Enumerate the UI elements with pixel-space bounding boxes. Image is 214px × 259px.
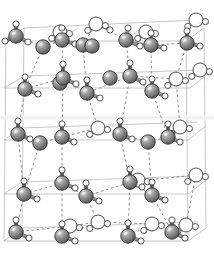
hydrogen-sphere [27, 136, 33, 142]
hydrogen-sphere [148, 30, 154, 36]
oxygen-sphere [11, 127, 25, 141]
hydrogen-sphere [35, 91, 41, 97]
hydrogen-sphere [184, 28, 190, 34]
hydrogen-sphere [76, 225, 82, 231]
oxygen-sphere [144, 38, 158, 52]
oxygen-sphere [80, 86, 94, 100]
hydrogen-sphere [97, 95, 103, 101]
hydrogen-sphere [104, 221, 110, 227]
oxygen-sphere [9, 29, 23, 43]
hydrogen-sphere [135, 35, 141, 41]
hydrogen-sphere [158, 223, 164, 229]
hydrogen-sphere [149, 76, 155, 82]
hydrogen-sphere [125, 25, 131, 31]
oxygen-sphere [18, 82, 32, 96]
hydrogen-sphere [73, 81, 79, 87]
hydrogen-sphere [202, 19, 208, 25]
oxygen-sphere [145, 188, 159, 202]
oxygen-sphere [79, 189, 93, 203]
hydrogen-sphere [127, 60, 133, 66]
hydrogen-sphere [72, 238, 78, 244]
molecular-structure-figure [0, 0, 214, 259]
water-oxygen-sphere [91, 121, 105, 135]
hydrogen-sphere [60, 61, 66, 67]
oxygen-sphere [165, 225, 179, 239]
water-oxygen-sphere [189, 13, 203, 27]
hydrogen-sphere [104, 127, 110, 133]
hydrogen-sphere [202, 174, 208, 180]
oxygen-sphere [33, 136, 47, 150]
oxygen-sphere [121, 229, 135, 243]
hydrogen-sphere [149, 179, 155, 185]
hydrogen-sphere [189, 73, 195, 79]
oxygen-sphere [36, 40, 50, 54]
water-oxygen-sphere [169, 72, 183, 86]
hydrogen-sphere [186, 126, 192, 132]
water-oxygen-sphere [173, 120, 187, 134]
hydrogen-sphere [161, 45, 167, 51]
oxygen-sphere [161, 130, 175, 144]
oxygen-sphere [119, 33, 133, 47]
oxygen-sphere [55, 176, 69, 190]
hydrogen-sphere [22, 74, 28, 80]
hydrogen-sphere [129, 136, 135, 142]
hydrogen-sphere [21, 178, 27, 184]
hydrogen-sphere [72, 185, 78, 191]
hydrogen-sphere [26, 235, 32, 241]
oxygen-sphere [17, 187, 31, 201]
oxygen-sphere [55, 130, 69, 144]
oxygen-sphere [9, 225, 23, 239]
hydrogen-sphere [85, 27, 91, 33]
hydrogen-sphere [127, 166, 133, 172]
oxygen-sphere [180, 36, 194, 50]
water-oxygen-sphere [193, 63, 207, 77]
hydrogen-sphere [139, 184, 145, 190]
water-oxygen-sphere [179, 218, 193, 232]
oxygen-sphere [55, 33, 69, 47]
hydrogen-sphere [192, 224, 198, 230]
hydrogen-sphere [165, 82, 171, 88]
hydrogen-sphere [197, 43, 203, 49]
hydrogen-sphere [182, 78, 188, 84]
oxygen-sphere [145, 84, 159, 98]
hydrogen-sphere [59, 121, 65, 127]
hydrogen-sphere [13, 217, 19, 223]
oxygen-sphere [56, 71, 70, 85]
hydrogen-sphere [165, 121, 171, 127]
hydrogen-sphere [84, 77, 90, 83]
water-oxygen-sphere [145, 217, 159, 231]
hydrogen-sphere [15, 118, 21, 124]
hydrogen-sphere [177, 139, 183, 145]
hydrogen-sphere [34, 196, 40, 202]
water-oxygen-sphere [89, 17, 103, 31]
hydrogen-sphere [138, 238, 144, 244]
oxygen-sphere [85, 39, 99, 53]
hydrogen-sphere [59, 167, 65, 173]
hydrogen-sphere [107, 27, 113, 33]
hydrogen-sphere [49, 35, 55, 41]
hydrogen-sphere [169, 217, 175, 223]
structure-canvas [0, 0, 214, 259]
hydrogen-sphere [162, 93, 168, 99]
hydrogen-sphere [13, 21, 19, 27]
hydrogen-sphere [185, 178, 191, 184]
hydrogen-sphere [137, 43, 143, 49]
hydrogen-sphere [182, 235, 188, 241]
hydrogen-sphere [59, 221, 65, 227]
hydrogen-sphere [71, 139, 77, 145]
hydrogen-sphere [25, 39, 31, 45]
oxygen-sphere [141, 135, 155, 149]
hydrogen-sphere [140, 79, 146, 85]
water-oxygen-sphere [91, 215, 105, 229]
hydrogen-sphere [206, 69, 212, 75]
hydrogen-sphere [162, 197, 168, 203]
oxygen-sphere [103, 71, 117, 85]
hydrogen-sphere [87, 225, 93, 231]
water-oxygen-sphere [189, 168, 203, 182]
hydrogen-sphere [141, 227, 147, 233]
hydrogen-sphere [87, 131, 93, 137]
hydrogen-sphere [125, 220, 131, 226]
oxygen-sphere [123, 175, 137, 189]
hydrogen-sphere [83, 180, 89, 186]
hydrogen-sphere [2, 38, 8, 44]
